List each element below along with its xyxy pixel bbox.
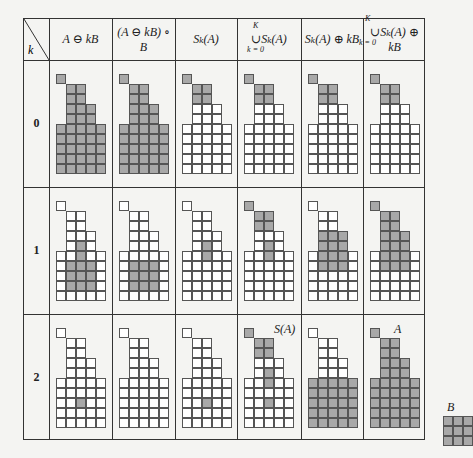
grid-cell bbox=[244, 154, 254, 164]
grid-cell bbox=[222, 388, 232, 398]
grid-cell bbox=[56, 144, 66, 154]
grid-cell bbox=[129, 104, 139, 114]
pixel-grid bbox=[56, 201, 106, 301]
grid-cell bbox=[254, 154, 264, 164]
grid-cell bbox=[139, 271, 149, 281]
pixel-grid bbox=[308, 201, 358, 301]
grid-cell bbox=[244, 164, 254, 174]
grid-cell bbox=[463, 426, 473, 436]
grid-cell bbox=[159, 261, 169, 271]
grid-cell bbox=[380, 338, 390, 348]
column-header: Sₖ(A) bbox=[175, 19, 237, 60]
grid-cell bbox=[56, 134, 66, 144]
grid-cell bbox=[318, 261, 328, 271]
grid-cell bbox=[182, 261, 192, 271]
grid-cell bbox=[76, 338, 86, 348]
grid-cell bbox=[390, 348, 400, 358]
grid-cell bbox=[338, 271, 348, 281]
pixel-grid bbox=[308, 74, 358, 174]
grid-cell bbox=[56, 251, 66, 261]
grid-cell bbox=[400, 368, 410, 378]
grid-cell bbox=[129, 211, 139, 221]
grid-cell bbox=[202, 378, 212, 388]
grid-cell bbox=[370, 291, 380, 301]
grid-cell bbox=[76, 154, 86, 164]
grid-cell bbox=[119, 408, 129, 418]
grid-cell bbox=[182, 291, 192, 301]
grid-cell bbox=[254, 358, 264, 368]
grid-cell bbox=[202, 164, 212, 174]
grid-cell bbox=[212, 164, 222, 174]
grid-cell bbox=[119, 134, 129, 144]
pixel-grid bbox=[182, 201, 232, 301]
grid-cell bbox=[149, 378, 159, 388]
grid-cell bbox=[308, 124, 318, 134]
grid-cell bbox=[202, 241, 212, 251]
grid-cell bbox=[443, 416, 453, 426]
grid-cell bbox=[328, 408, 338, 418]
grid-cell bbox=[244, 261, 254, 271]
grid-cell bbox=[410, 154, 420, 164]
grid-cell bbox=[222, 251, 232, 261]
grid-cell bbox=[119, 378, 129, 388]
grid-cell bbox=[380, 144, 390, 154]
grid-cell bbox=[370, 398, 380, 408]
grid-cell bbox=[139, 221, 149, 231]
row-k-label: 1 bbox=[24, 187, 49, 314]
grid-cell bbox=[86, 378, 96, 388]
grid-cell bbox=[129, 241, 139, 251]
grid-cell bbox=[264, 388, 274, 398]
column-header: A ⊖ kB bbox=[49, 19, 112, 60]
grid-cell bbox=[129, 408, 139, 418]
grid-cell bbox=[284, 408, 294, 418]
grid-cell bbox=[370, 74, 380, 84]
grid-cell bbox=[182, 281, 192, 291]
grid-cell bbox=[380, 281, 390, 291]
grid-cell bbox=[284, 418, 294, 428]
grid-cell bbox=[254, 241, 264, 251]
grid-cell bbox=[370, 261, 380, 271]
grid-cell bbox=[96, 408, 106, 418]
grid-cell bbox=[380, 251, 390, 261]
grid-cell bbox=[222, 124, 232, 134]
grid-cell bbox=[380, 231, 390, 241]
grid-cell bbox=[328, 221, 338, 231]
grid-cell bbox=[86, 124, 96, 134]
grid-cell bbox=[284, 291, 294, 301]
grid-cell bbox=[254, 398, 264, 408]
grid-cell bbox=[348, 378, 358, 388]
grid-cell bbox=[66, 104, 76, 114]
grid-cell bbox=[308, 251, 318, 261]
pixel-grid bbox=[119, 74, 169, 174]
grid-cell bbox=[380, 104, 390, 114]
grid-cell bbox=[182, 251, 192, 261]
grid-cell bbox=[264, 261, 274, 271]
grid-cell bbox=[192, 348, 202, 358]
grid-cell bbox=[212, 231, 222, 241]
skeleton-table: k A ⊖ kB(A ⊖ kB) ∘ BSₖ(A)K∪Sₖ(A)k = 0Sₖ(… bbox=[23, 18, 425, 440]
grid-cell bbox=[76, 221, 86, 231]
grid-cell bbox=[380, 398, 390, 408]
grid-cell bbox=[86, 104, 96, 114]
b-label: B bbox=[447, 400, 454, 415]
grid-cell bbox=[348, 388, 358, 398]
grid-cell bbox=[202, 358, 212, 368]
pixel-grid bbox=[244, 328, 294, 428]
grid-cell bbox=[149, 358, 159, 368]
grid-cell bbox=[86, 408, 96, 418]
grid-cell bbox=[338, 104, 348, 114]
grid-cell bbox=[338, 291, 348, 301]
grid-cell bbox=[119, 281, 129, 291]
grid-cell bbox=[66, 144, 76, 154]
grid-cell bbox=[139, 348, 149, 358]
grid-cell bbox=[244, 251, 254, 261]
grid-cell bbox=[66, 134, 76, 144]
grid-cell bbox=[192, 164, 202, 174]
grid-cell bbox=[318, 418, 328, 428]
grid-cell bbox=[400, 418, 410, 428]
grid-cell bbox=[264, 164, 274, 174]
grid-cell bbox=[443, 436, 453, 446]
grid-cell bbox=[56, 378, 66, 388]
grid-cell bbox=[348, 281, 358, 291]
grid-cell bbox=[308, 378, 318, 388]
